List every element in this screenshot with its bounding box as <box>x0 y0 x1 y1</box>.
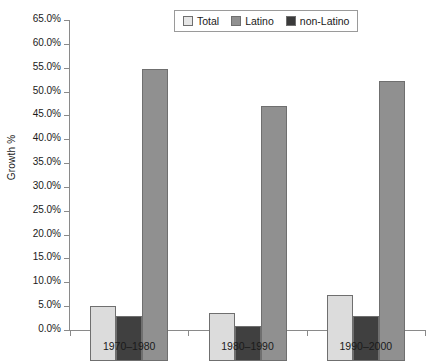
y-axis-tick-label: 50.0% <box>33 85 61 96</box>
legend-swatch-icon <box>286 16 296 26</box>
y-axis-tick-mark <box>64 306 70 307</box>
x-axis-tick-mark <box>425 330 426 336</box>
y-axis-tick-mark <box>64 139 70 140</box>
y-axis-tick-mark <box>64 163 70 164</box>
x-axis-category-label: 1990–2000 <box>307 340 425 352</box>
legend-item: Total <box>183 15 219 27</box>
y-axis-tick-label: 65.0% <box>33 13 61 24</box>
legend-label: non-Latino <box>300 15 350 27</box>
bar-total <box>90 306 116 361</box>
y-axis-line <box>69 20 70 331</box>
bar-non-latino <box>353 316 379 361</box>
y-axis-tick-label: 10.0% <box>33 275 61 286</box>
y-axis-tick-label: 20.0% <box>33 228 61 239</box>
x-axis-tick-mark <box>70 330 71 336</box>
y-axis-tick-label: 60.0% <box>33 37 61 48</box>
y-axis-tick-mark <box>64 44 70 45</box>
y-axis-tick-label: 45.0% <box>33 108 61 119</box>
bar-group <box>209 51 287 361</box>
bar-group <box>90 51 168 361</box>
y-axis-tick-label: 5.0% <box>38 299 61 310</box>
y-axis-tick-mark <box>64 20 70 21</box>
y-axis-tick-mark <box>64 92 70 93</box>
y-axis-title: Growth % <box>6 123 17 193</box>
y-axis-tick-label: 35.0% <box>33 156 61 167</box>
chart-legend: TotalLatinonon-Latino <box>174 10 358 32</box>
bar-group <box>327 51 405 361</box>
x-axis-tick-mark <box>188 330 189 336</box>
x-axis-category-label: 1980–1990 <box>188 340 306 352</box>
legend-swatch-icon <box>183 16 193 26</box>
bar-latino <box>379 81 405 361</box>
bar-latino <box>261 106 287 361</box>
legend-swatch-icon <box>231 16 241 26</box>
y-axis-tick-label: 15.0% <box>33 251 61 262</box>
y-axis-tick-mark <box>64 258 70 259</box>
y-axis-tick-label: 55.0% <box>33 61 61 72</box>
bar-chart: Growth % 0.0%5.0%10.0%15.0%20.0%25.0%30.… <box>0 0 429 361</box>
y-axis-tick-label: 40.0% <box>33 132 61 143</box>
y-axis-tick-label: 25.0% <box>33 204 61 215</box>
legend-label: Total <box>197 15 219 27</box>
y-axis-tick-label: 30.0% <box>33 180 61 191</box>
legend-item: Latino <box>231 15 274 27</box>
bar-latino <box>142 69 168 361</box>
y-axis-tick-mark <box>64 68 70 69</box>
x-axis-category-label: 1970–1980 <box>70 340 188 352</box>
bar-non-latino <box>116 316 142 361</box>
y-axis-tick-mark <box>64 282 70 283</box>
x-axis-tick-mark <box>307 330 308 336</box>
y-axis-tick-mark <box>64 187 70 188</box>
y-axis-tick-mark <box>64 211 70 212</box>
legend-label: Latino <box>245 15 274 27</box>
y-axis-tick-mark <box>64 115 70 116</box>
bar-total <box>209 313 235 361</box>
y-axis-tick-label: 0.0% <box>38 323 61 334</box>
legend-item: non-Latino <box>286 15 350 27</box>
y-axis-tick-mark <box>64 235 70 236</box>
